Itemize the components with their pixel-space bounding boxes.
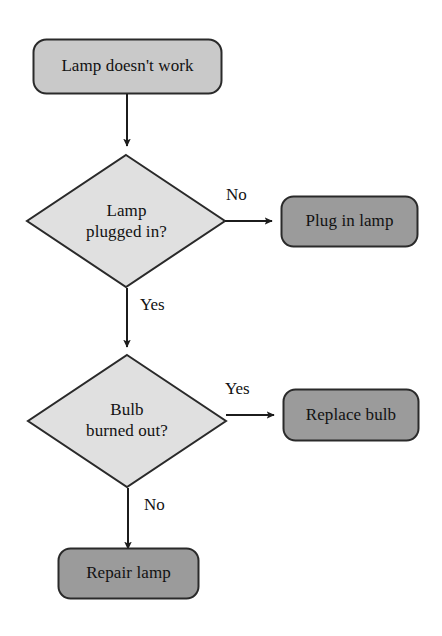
node-start[interactable] — [33, 39, 222, 94]
node-action-plug[interactable] — [281, 196, 418, 247]
node-action-repair[interactable] — [58, 548, 199, 599]
flowchart-diagram: Lamp doesn't work Lamp plugged in? Plug … — [0, 0, 442, 636]
node-action-replace[interactable] — [283, 389, 419, 441]
node-decision-plugged[interactable] — [27, 155, 226, 288]
node-decision-bulb[interactable] — [28, 355, 227, 488]
flowchart-canvas — [0, 0, 442, 636]
